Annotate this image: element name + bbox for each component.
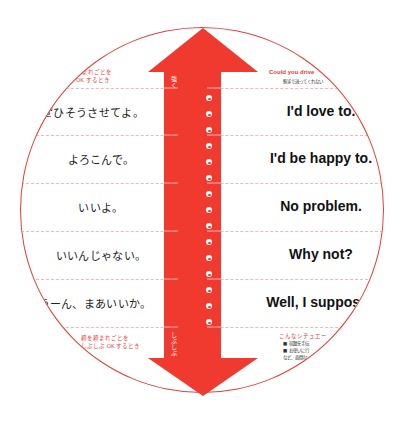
ring-hole-icon bbox=[206, 191, 212, 197]
ring-hole-icon bbox=[206, 143, 212, 149]
double-arrow-icon bbox=[0, 0, 403, 423]
ring-hole-icon bbox=[206, 111, 212, 117]
ring-hole-icon bbox=[206, 255, 212, 261]
ring-hole-icon bbox=[206, 287, 212, 293]
ring-hole-icon bbox=[206, 223, 212, 229]
scale-bottom-label: しぶしぶ bbox=[170, 332, 176, 356]
ring-hole-icon bbox=[206, 95, 212, 101]
ring-hole-icon bbox=[206, 271, 212, 277]
ring-hole-icon bbox=[206, 127, 212, 133]
scale-top-label: 強く bbox=[170, 76, 176, 88]
ring-hole-icon bbox=[206, 207, 212, 213]
ring-hole-icon bbox=[206, 303, 212, 309]
ring-hole-icon bbox=[206, 159, 212, 165]
ring-hole-icon bbox=[206, 239, 212, 245]
ring-hole-icon bbox=[206, 175, 212, 181]
ring-hole-icon bbox=[206, 319, 212, 325]
